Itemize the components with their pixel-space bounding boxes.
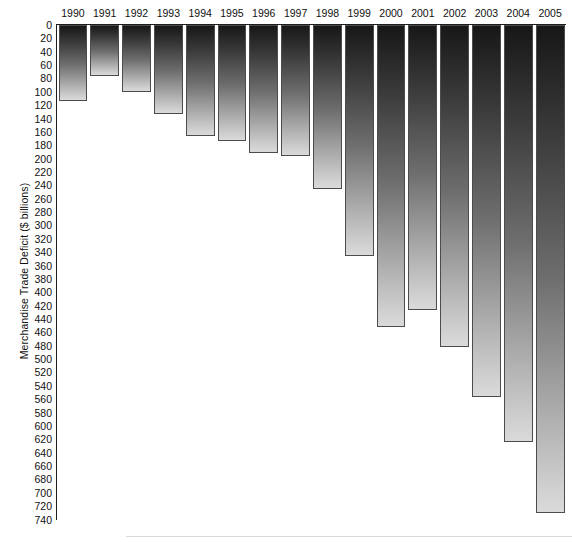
y-tick-label: 540	[18, 381, 52, 391]
y-tick-label: 80	[18, 73, 52, 83]
y-tick-label: 620	[18, 434, 52, 444]
bar-1991	[90, 25, 119, 76]
bar-1997	[281, 25, 310, 156]
x-tick-label-2000: 2000	[377, 8, 406, 19]
y-tick-label: 140	[18, 114, 52, 124]
bar-chart: Merchandise Trade Deficit ($ billions) 0…	[0, 0, 572, 542]
y-tick-label: 260	[18, 194, 52, 204]
y-tick-label: 640	[18, 448, 52, 458]
x-tick-label-1991: 1991	[90, 8, 119, 19]
x-tick-label-1992: 1992	[122, 8, 151, 19]
bar-2004	[504, 25, 533, 442]
y-tick-label: 280	[18, 207, 52, 217]
bar-2002	[440, 25, 469, 347]
bar-2000	[377, 25, 406, 327]
x-tick-label-1994: 1994	[186, 8, 215, 19]
x-tick-label-2004: 2004	[504, 8, 533, 19]
x-tick-label-1999: 1999	[345, 8, 374, 19]
bar-1992	[122, 25, 151, 92]
y-tick-label: 440	[18, 314, 52, 324]
x-tick-label-1998: 1998	[313, 8, 342, 19]
x-tick-label-1996: 1996	[249, 8, 278, 19]
y-tick-label: 60	[18, 60, 52, 70]
bar-1996	[249, 25, 278, 153]
y-tick-label: 600	[18, 421, 52, 431]
x-tick-label-1993: 1993	[154, 8, 183, 19]
bar-1990	[59, 25, 88, 101]
y-tick-label: 480	[18, 341, 52, 351]
bar-2003	[472, 25, 501, 397]
bar-1993	[154, 25, 183, 114]
y-tick-label: 380	[18, 274, 52, 284]
y-tick-label: 500	[18, 354, 52, 364]
y-tick-label: 300	[18, 220, 52, 230]
y-tick-label: 680	[18, 474, 52, 484]
y-tick-label: 40	[18, 47, 52, 57]
y-tick-label: 560	[18, 394, 52, 404]
y-tick-label: 120	[18, 100, 52, 110]
y-tick-label: 360	[18, 261, 52, 271]
bar-1999	[345, 25, 374, 256]
x-tick-label-1997: 1997	[281, 8, 310, 19]
y-tick-label: 460	[18, 327, 52, 337]
y-tick-label: 400	[18, 287, 52, 297]
x-tick-label-1995: 1995	[218, 8, 247, 19]
y-tick-label: 20	[18, 33, 52, 43]
x-tick-label-2001: 2001	[408, 8, 437, 19]
bar-1995	[218, 25, 247, 141]
x-tick-label-2005: 2005	[536, 8, 565, 19]
y-tick-label: 340	[18, 247, 52, 257]
bar-2001	[408, 25, 437, 310]
y-tick-label: 720	[18, 501, 52, 511]
y-tick-label: 240	[18, 180, 52, 190]
y-tick-label: 660	[18, 461, 52, 471]
y-tick-label: 420	[18, 301, 52, 311]
bar-1998	[313, 25, 342, 189]
y-tick-label: 180	[18, 140, 52, 150]
x-tick-label-1990: 1990	[59, 8, 88, 19]
bar-2005	[536, 25, 565, 513]
y-tick-label: 0	[18, 20, 52, 30]
y-tick-label: 740	[18, 515, 52, 525]
footer-rule	[126, 536, 572, 537]
y-tick-label: 220	[18, 167, 52, 177]
y-tick-label: 700	[18, 488, 52, 498]
y-tick-label: 160	[18, 127, 52, 137]
y-tick-label: 100	[18, 87, 52, 97]
plot-area	[57, 25, 566, 520]
y-tick-label: 520	[18, 367, 52, 377]
x-tick-label-2002: 2002	[440, 8, 469, 19]
y-tick-label: 200	[18, 154, 52, 164]
x-tick-label-2003: 2003	[472, 8, 501, 19]
y-tick-label: 320	[18, 234, 52, 244]
y-tick-label: 580	[18, 408, 52, 418]
bar-1994	[186, 25, 215, 136]
